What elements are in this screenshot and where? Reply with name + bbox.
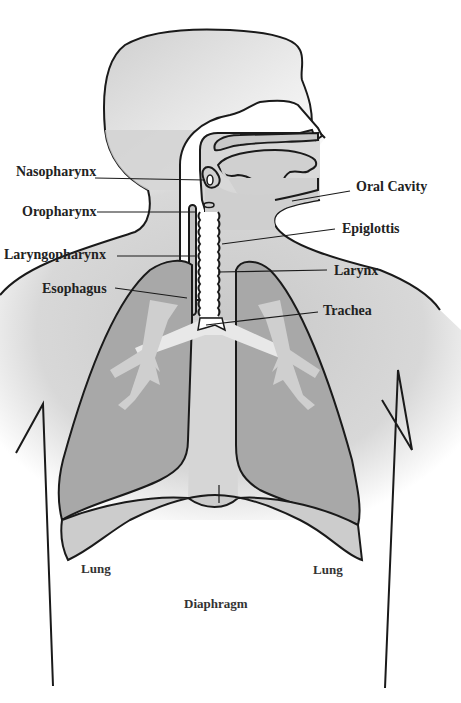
larynx xyxy=(204,203,214,208)
label-trachea: Trachea xyxy=(323,304,372,318)
label-oral-cavity: Oral Cavity xyxy=(356,180,427,194)
label-diaphragm: Diaphragm xyxy=(184,597,248,610)
mediastinum xyxy=(188,320,238,500)
label-lung-right: Lung xyxy=(313,563,343,576)
trachea xyxy=(199,212,220,317)
label-laryngopharynx: Laryngopharynx xyxy=(4,248,106,262)
label-epiglottis: Epiglottis xyxy=(342,222,400,236)
label-nasopharynx: Nasopharynx xyxy=(16,165,96,179)
label-oropharynx: Oropharynx xyxy=(22,205,96,219)
label-lung-left: Lung xyxy=(81,562,111,575)
label-larynx: Larynx xyxy=(334,264,378,278)
label-esophagus: Esophagus xyxy=(42,282,107,296)
